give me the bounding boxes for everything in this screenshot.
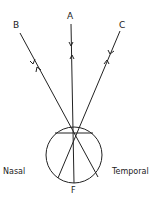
fovea-label: F [71, 186, 76, 195]
temporal-label: Temporal [111, 167, 149, 176]
ray-label-c: C [119, 20, 125, 30]
eye-ray-diagram: B A C F Nasal Temporal [0, 0, 164, 201]
ray-b [20, 33, 98, 177]
ray-label-a: A [67, 11, 74, 21]
ray-a [71, 24, 74, 183]
nasal-label: Nasal [3, 167, 25, 176]
ray-b-arrow-down-icon [30, 59, 35, 64]
ray-label-b: B [13, 20, 19, 30]
